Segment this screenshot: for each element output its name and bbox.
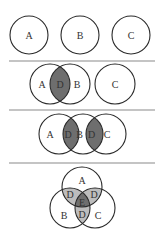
set-b-label: B — [61, 210, 68, 221]
set-a-label: A — [46, 129, 54, 140]
set-c-label: C — [104, 129, 111, 140]
panel-ab-overlap: A D B C — [30, 64, 135, 104]
intersection-d-label-ab: D — [64, 129, 71, 140]
set-b-label: B — [76, 129, 83, 140]
set-a-label: A — [25, 30, 33, 41]
set-a-label: A — [78, 175, 86, 186]
panel-three-way-venn: A D D E B D C — [50, 167, 115, 228]
intersection-bc-label: D — [78, 209, 85, 220]
set-a-label: A — [38, 79, 46, 90]
set-c-label: C — [128, 30, 135, 41]
set-c-label: C — [95, 210, 102, 221]
intersection-d-label-bc: D — [88, 129, 95, 140]
set-b-label: B — [74, 79, 81, 90]
set-b-label: B — [77, 30, 84, 41]
set-overlap-diagram: A B C A D B C A D B D C — [0, 0, 165, 246]
intersection-ab-label: D — [66, 189, 73, 200]
panel-separate-sets: A B C — [10, 16, 150, 54]
panel-chain-overlap: A D B D C — [39, 114, 126, 154]
intersection-abc-label: E — [79, 197, 85, 208]
intersection-ac-label: D — [90, 189, 97, 200]
set-c-label: C — [112, 79, 119, 90]
intersection-d-label: D — [56, 79, 63, 90]
